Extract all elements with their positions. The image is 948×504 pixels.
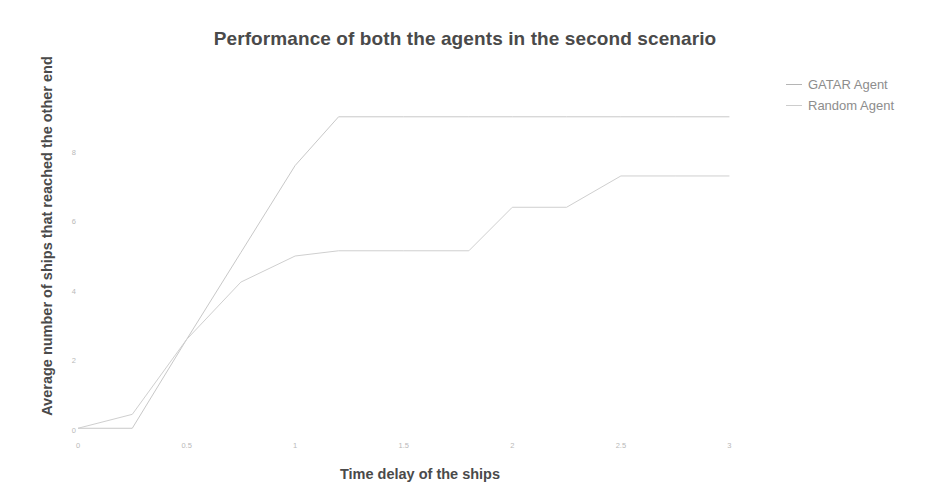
y-tick-label: 0 [72, 426, 76, 435]
line-series-gatar-agent [78, 117, 729, 428]
legend-line-icon [786, 84, 802, 85]
y-tick-label: 4 [72, 286, 76, 295]
x-tick-label: 0.5 [181, 441, 191, 450]
legend-item-label: Random Agent [808, 98, 894, 113]
x-tick-label: 0 [76, 441, 80, 450]
x-tick-label: 2 [510, 441, 514, 450]
x-tick-label: 2.5 [616, 441, 626, 450]
legend-line-icon [786, 105, 802, 106]
chart-figure: Performance of both the agents in the se… [0, 0, 948, 504]
x-axis-ticks: 00.511.522.53 [78, 441, 762, 457]
legend-item-label: GATAR Agent [808, 77, 888, 92]
x-tick-label: 1 [293, 441, 297, 450]
x-axis-label: Time delay of the ships [280, 466, 560, 482]
y-tick-label: 6 [72, 217, 76, 226]
legend-item[interactable]: GATAR Agent [786, 74, 936, 95]
y-axis-ticks: 02468 [52, 82, 76, 430]
plot-area [78, 82, 762, 430]
legend-item[interactable]: Random Agent [786, 95, 936, 116]
y-tick-label: 2 [72, 356, 76, 365]
y-tick-label: 8 [72, 147, 76, 156]
chart-title: Performance of both the agents in the se… [120, 28, 810, 50]
x-tick-label: 3 [727, 441, 731, 450]
line-series-random-agent [78, 176, 729, 428]
x-tick-label: 1.5 [398, 441, 408, 450]
chart-legend: GATAR AgentRandom Agent [786, 74, 936, 116]
plot-lines [78, 82, 762, 430]
